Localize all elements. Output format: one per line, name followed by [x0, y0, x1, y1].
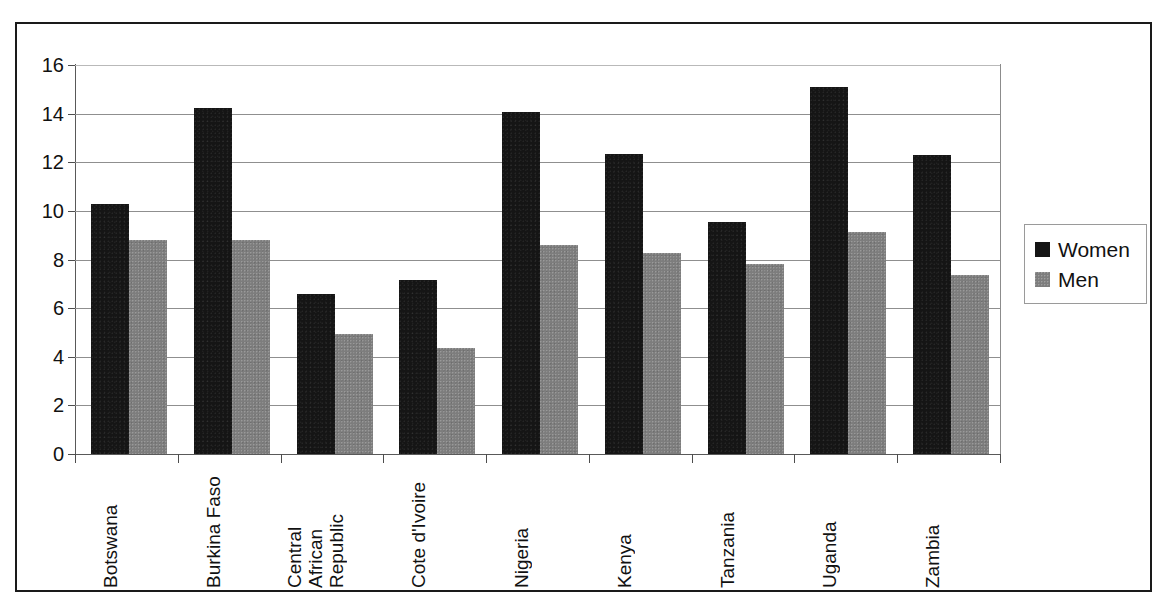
bar-group — [692, 65, 795, 454]
bar-group — [589, 65, 692, 454]
y-tick-2 — [68, 405, 75, 406]
y-tick-16 — [68, 65, 75, 66]
x-axis-label-line: Cote d'Ivoire — [407, 458, 428, 588]
legend-item-label: Men — [1058, 269, 1099, 290]
bar-group — [794, 65, 897, 454]
x-axis-label-line: Uganda — [818, 458, 839, 588]
x-axis-label-slot: Tanzania — [692, 458, 795, 588]
y-tick-0 — [68, 454, 75, 455]
bar-women-nigeria — [502, 112, 540, 454]
bar-women-tanzania — [708, 222, 746, 454]
bar-women-kenya — [605, 154, 643, 454]
x-axis-label-line: African — [304, 458, 325, 588]
bar-men-kenya — [643, 253, 681, 454]
bar-men-cote-d-ivoire — [437, 348, 475, 454]
x-axis-label-slot: Cote d'Ivoire — [383, 458, 486, 588]
bar-women-zambia — [913, 155, 951, 454]
y-axis-tick-label: 0 — [53, 444, 64, 464]
y-axis-tick-label: 6 — [53, 298, 64, 318]
x-axis-label: Nigeria — [510, 458, 531, 588]
black-square-swatch — [1035, 242, 1050, 257]
x-axis-label-slot: CentralAfricanRepublic — [281, 458, 384, 588]
bar-group — [383, 65, 486, 454]
chart-legend: WomenMen — [1024, 224, 1147, 304]
x-axis-line — [75, 454, 1001, 455]
x-axis-label: Kenya — [613, 458, 634, 588]
plot-area: 0246810121416 — [75, 65, 1000, 454]
x-axis-labels: BotswanaBurkina FasoCentralAfricanRepubl… — [75, 458, 1000, 588]
bar-women-burkina-faso — [194, 108, 232, 454]
y-axis-tick-label: 14 — [42, 104, 64, 124]
x-axis-label-slot: Zambia — [897, 458, 1000, 588]
bar-men-burkina-faso — [232, 240, 270, 454]
plot-right-edge — [1000, 64, 1001, 455]
x-axis-label-slot: Burkina Faso — [178, 458, 281, 588]
bar-group — [897, 65, 1000, 454]
chart-page: 0246810121416 BotswanaBurkina FasoCentra… — [0, 0, 1169, 611]
y-axis-tick-label: 16 — [42, 55, 64, 75]
x-axis-label-slot: Nigeria — [486, 458, 589, 588]
x-axis-label-line: Central — [283, 458, 304, 588]
bar-men-uganda — [848, 232, 886, 454]
chart-frame: 0246810121416 BotswanaBurkina FasoCentra… — [15, 22, 1152, 592]
bars-layer — [75, 65, 1000, 454]
y-axis-tick-label: 12 — [42, 152, 64, 172]
x-axis-label: Cote d'Ivoire — [407, 458, 428, 588]
legend-item-women[interactable]: Women — [1035, 234, 1130, 264]
y-axis-tick-label: 4 — [53, 347, 64, 367]
bar-women-uganda — [810, 87, 848, 454]
bar-women-botswana — [91, 204, 129, 454]
x-axis-label-line: Republic — [325, 458, 346, 588]
bar-group — [178, 65, 281, 454]
y-tick-6 — [68, 308, 75, 309]
x-axis-label-slot: Botswana — [75, 458, 178, 588]
x-tick — [1000, 454, 1001, 463]
bar-group — [75, 65, 178, 454]
bar-women-central-african-republic — [297, 294, 335, 454]
y-tick-4 — [68, 357, 75, 358]
x-axis-label-line: Tanzania — [716, 458, 737, 588]
y-axis-tick-label: 2 — [53, 395, 64, 415]
y-axis-tick-label: 10 — [42, 201, 64, 221]
bar-men-botswana — [129, 240, 167, 454]
x-axis-label-line: Burkina Faso — [202, 458, 223, 588]
x-axis-label-slot: Uganda — [794, 458, 897, 588]
y-tick-14 — [68, 114, 75, 115]
y-tick-10 — [68, 211, 75, 212]
x-axis-label-line: Botswana — [99, 458, 120, 588]
y-axis-tick-label: 8 — [53, 250, 64, 270]
x-axis-label-line: Kenya — [613, 458, 634, 588]
bar-men-central-african-republic — [335, 334, 373, 454]
legend-item-men[interactable]: Men — [1035, 264, 1130, 294]
bar-men-tanzania — [746, 264, 784, 454]
y-tick-12 — [68, 162, 75, 163]
x-axis-label-line: Nigeria — [510, 458, 531, 588]
bar-men-nigeria — [540, 245, 578, 454]
x-axis-label-line: Zambia — [921, 458, 942, 588]
bar-women-cote-d-ivoire — [399, 280, 437, 454]
x-axis-label: Tanzania — [716, 458, 737, 588]
bar-men-zambia — [951, 275, 989, 454]
legend-item-label: Women — [1058, 239, 1130, 260]
bar-group — [281, 65, 384, 454]
x-axis-label: Zambia — [921, 458, 942, 588]
x-axis-label: CentralAfricanRepublic — [283, 458, 346, 588]
x-axis-label: Burkina Faso — [202, 458, 223, 588]
x-axis-label: Botswana — [99, 458, 120, 588]
x-axis-label: Uganda — [818, 458, 839, 588]
y-tick-8 — [68, 260, 75, 261]
gray-square-swatch — [1035, 272, 1050, 287]
bar-group — [486, 65, 589, 454]
x-axis-label-slot: Kenya — [589, 458, 692, 588]
